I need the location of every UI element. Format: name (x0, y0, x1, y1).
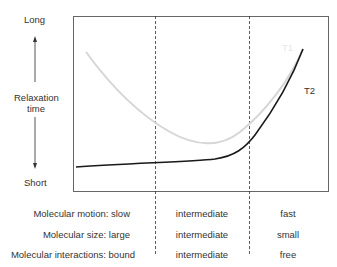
t1-curve (86, 49, 303, 143)
row-motion-mid: intermediate (172, 208, 232, 219)
row-interactions-label: Molecular interactions: bound (11, 249, 135, 260)
row-size-right: small (268, 229, 308, 240)
relaxation-diagram (0, 0, 337, 267)
row-size-mid: intermediate (172, 229, 232, 240)
row-size-label: Molecular size: large (43, 229, 130, 240)
row-interactions-right: free (268, 249, 308, 260)
y-axis-arrow-up-icon (33, 36, 37, 82)
t2-label: T2 (304, 85, 315, 96)
t2-curve (76, 49, 303, 167)
row-interactions-mid: intermediate (172, 249, 232, 260)
t1-label: T1 (282, 42, 293, 53)
row-motion-label: Molecular motion: slow (33, 208, 130, 219)
row-motion-right: fast (268, 208, 308, 219)
y-axis-arrow-down-icon (33, 117, 37, 169)
